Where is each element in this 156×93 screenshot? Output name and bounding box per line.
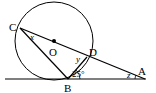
label-O: O — [49, 46, 57, 58]
geometry-diagram: C O D B A x y z 25° — [0, 0, 156, 93]
chord-CB — [20, 28, 68, 79]
angle-label-y: y — [75, 54, 80, 64]
label-A: A — [138, 65, 146, 77]
center-point-O — [52, 39, 56, 43]
angle-label-z: z — [126, 70, 131, 80]
label-B: B — [64, 82, 71, 93]
angle-label-25: 25° — [72, 69, 85, 79]
label-C: C — [9, 21, 16, 33]
label-D: D — [89, 46, 97, 58]
angle-label-x: x — [29, 32, 34, 42]
